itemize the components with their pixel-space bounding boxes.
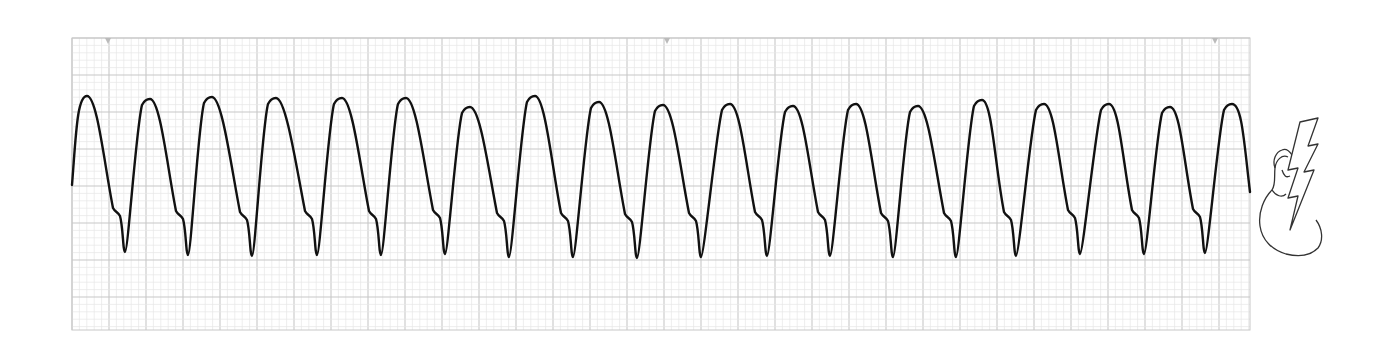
ecg-waveform-trace [72, 96, 1250, 258]
heart-with-lightning-bolt-icon [1260, 118, 1322, 256]
ecg-grid-paper [72, 38, 1250, 330]
ecg-rhythm-strip [0, 0, 1392, 340]
